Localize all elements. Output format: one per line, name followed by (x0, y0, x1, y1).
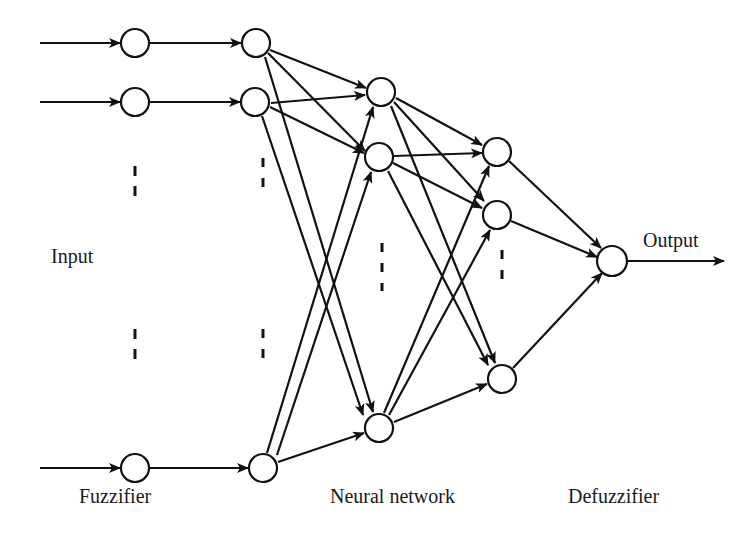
hidden1-node (365, 143, 393, 171)
fuzzy-neural-network-diagram: Input Fuzzifier Neural network Defuzzifi… (0, 0, 754, 542)
fuzzifier-label: Fuzzifier (79, 485, 152, 507)
hidden1-node (365, 414, 393, 442)
hidden2-node (483, 138, 511, 166)
hidden2-node (488, 365, 516, 393)
output-node (597, 246, 627, 276)
neural-network-label: Neural network (330, 485, 455, 507)
hidden1-node (367, 78, 395, 106)
fuzzifier-in-node (121, 454, 149, 482)
hidden1-to-hidden2-edges (384, 98, 495, 422)
nodes (121, 29, 627, 482)
fuzzifier-out-node (241, 88, 269, 116)
fuzzifier-in-node (121, 88, 149, 116)
fuzzifier-out-node (249, 454, 277, 482)
fuzzifier-arrows (150, 43, 248, 468)
output-label: Output (643, 229, 699, 252)
defuzzifier-label: Defuzzifier (568, 485, 659, 507)
fuzzifier-in-node (121, 29, 149, 57)
input-label: Input (51, 245, 94, 268)
fuzzifier-out-node (242, 29, 270, 57)
layer1-to-hidden1-edges (262, 50, 373, 462)
hidden2-node (483, 201, 511, 229)
